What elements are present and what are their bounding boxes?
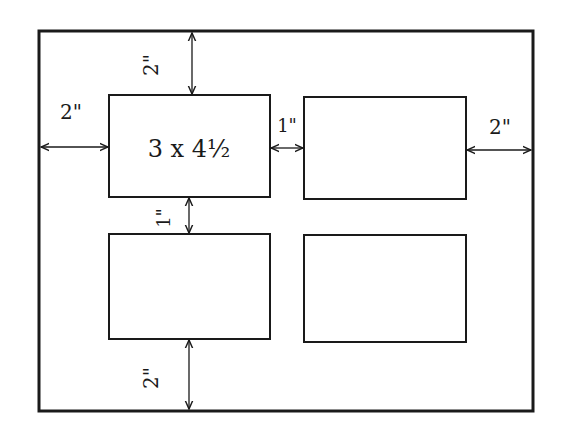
- outer-frame: [39, 31, 533, 411]
- opening-size-label: 3 x 4½: [148, 135, 231, 163]
- opening-bottom-left: [109, 234, 270, 339]
- opening-top-right: [304, 97, 466, 199]
- opening-bottom-right: [304, 235, 466, 342]
- top-margin-label: 2": [139, 54, 163, 76]
- left-margin-label: 2": [60, 100, 82, 124]
- bottom-margin-label: 2": [139, 367, 163, 389]
- column-gap-label: 1": [277, 115, 297, 136]
- right-margin-label: 2": [489, 115, 511, 139]
- mat-layout-diagram: 3 x 4½ 2" 2" 1" 2" 1" 2": [0, 0, 563, 437]
- row-gap-label: 1": [153, 208, 174, 228]
